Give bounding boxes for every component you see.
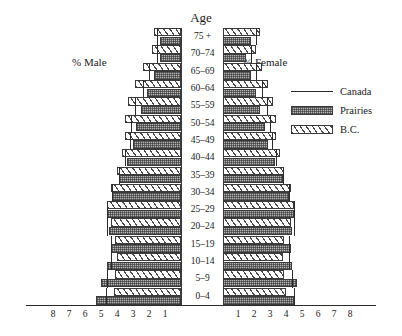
population-pyramid-chart: Age % Male % Female 0–45–910–1415–1920–2… <box>0 0 402 336</box>
canada-line-female <box>270 115 271 132</box>
bar-bc-female <box>222 184 291 192</box>
canada-line-female <box>256 28 257 45</box>
bar-bc-male <box>114 288 181 296</box>
age-group-label: 75 + <box>182 28 223 45</box>
canada-line-female <box>289 184 290 201</box>
bar-prairies-female <box>222 296 294 304</box>
bar-prairies-female <box>222 244 291 252</box>
x-tick-right-1: 1 <box>230 309 246 319</box>
bar-bc-male <box>125 132 181 140</box>
canada-line-male <box>119 167 120 184</box>
x-tick-right-7: 7 <box>326 309 342 319</box>
chart-title-age: Age <box>0 10 402 26</box>
canada-line-male <box>135 97 136 114</box>
canada-line-male <box>111 253 112 270</box>
bar-bc-male <box>128 97 181 105</box>
canada-line-female <box>289 236 290 253</box>
bar-bc-male <box>122 149 181 157</box>
legend-swatch-prairies <box>291 106 333 115</box>
age-group-label: 55–59 <box>182 97 223 114</box>
legend-label: Prairies <box>340 103 372 118</box>
canada-line-female <box>294 201 295 218</box>
bar-prairies-female <box>222 262 292 270</box>
bar-prairies-male <box>109 227 181 235</box>
age-group-label: 15–19 <box>182 236 223 253</box>
bar-bc-female <box>222 201 294 209</box>
bar-prairies-male <box>112 192 181 200</box>
bar-prairies-female <box>222 279 297 287</box>
bar-prairies-male <box>133 140 181 148</box>
bar-bc-female <box>222 270 284 278</box>
bar-prairies-male <box>154 71 181 79</box>
canada-line-female <box>256 63 257 80</box>
age-group-label: 5–9 <box>182 270 223 287</box>
bar-prairies-female <box>222 140 268 148</box>
x-tick-left-6: 6 <box>77 309 93 319</box>
bar-bc-female <box>222 288 286 296</box>
bar-prairies-female <box>222 175 283 183</box>
canada-line-male <box>125 149 126 166</box>
canada-line-female <box>276 149 277 166</box>
bar-prairies-female <box>222 71 251 79</box>
canada-line-male <box>111 236 112 253</box>
canada-line-male <box>107 201 108 218</box>
bar-bc-male <box>111 184 181 192</box>
bar-prairies-female <box>222 89 256 97</box>
bar-prairies-female <box>222 54 246 62</box>
legend-swatch-canada <box>291 91 333 92</box>
bar-bc-male <box>125 115 181 123</box>
x-tick-right-2: 2 <box>246 309 262 319</box>
bar-bc-female <box>222 236 284 244</box>
x-tick-right-6: 6 <box>310 309 326 319</box>
x-tick-left-7: 7 <box>61 309 77 319</box>
x-axis-line <box>26 305 376 306</box>
x-tick-left-1: 1 <box>157 309 173 319</box>
bar-prairies-female <box>222 158 275 166</box>
canada-line-male <box>112 184 113 201</box>
legend-label: Canada <box>340 84 372 99</box>
bar-bc-male <box>115 270 181 278</box>
bar-prairies-female <box>222 192 289 200</box>
canada-line-female <box>294 288 295 305</box>
bar-prairies-male <box>160 54 181 62</box>
bar-prairies-male <box>107 210 181 218</box>
canada-line-male <box>107 218 108 235</box>
age-group-label: 25–29 <box>182 201 223 218</box>
x-tick-left-2: 2 <box>141 309 157 319</box>
canada-line-male <box>131 115 132 132</box>
bar-bc-female <box>222 218 291 226</box>
x-tick-right-5: 5 <box>294 309 310 319</box>
age-group-label: 45–49 <box>182 132 223 149</box>
age-group-label: 50–54 <box>182 115 223 132</box>
age-group-label: 70–74 <box>182 45 223 62</box>
x-tick-left-5: 5 <box>93 309 109 319</box>
canada-line-male <box>157 28 158 45</box>
bar-prairies-male <box>111 244 181 252</box>
bar-prairies-male <box>119 175 181 183</box>
x-tick-left-4: 4 <box>109 309 125 319</box>
age-group-label: 10–14 <box>182 253 223 270</box>
bar-prairies-male <box>96 296 181 304</box>
canada-line-male <box>107 270 108 287</box>
bar-prairies-male <box>107 262 181 270</box>
canada-line-female <box>292 270 293 287</box>
bar-bc-female <box>222 132 276 140</box>
bar-prairies-male <box>147 89 181 97</box>
legend-swatch-bc <box>291 125 333 134</box>
legend-label: B.C. <box>340 122 359 137</box>
canada-line-female <box>267 97 268 114</box>
age-group-label: 60–64 <box>182 80 223 97</box>
age-group-column: 0–45–910–1415–1920–2425–2930–3435–3940–4… <box>181 28 224 305</box>
bar-prairies-female <box>222 123 265 131</box>
bar-prairies-male <box>141 106 181 114</box>
bar-prairies-female <box>222 210 294 218</box>
canada-line-female <box>251 45 252 62</box>
bar-prairies-female <box>222 37 251 45</box>
canada-line-female <box>262 80 263 97</box>
bar-bc-female <box>222 97 273 105</box>
bar-bc-female <box>222 115 276 123</box>
bar-prairies-female <box>222 227 292 235</box>
canada-line-male <box>157 45 158 62</box>
age-group-label: 0–4 <box>182 288 223 305</box>
canada-line-male <box>130 132 131 149</box>
